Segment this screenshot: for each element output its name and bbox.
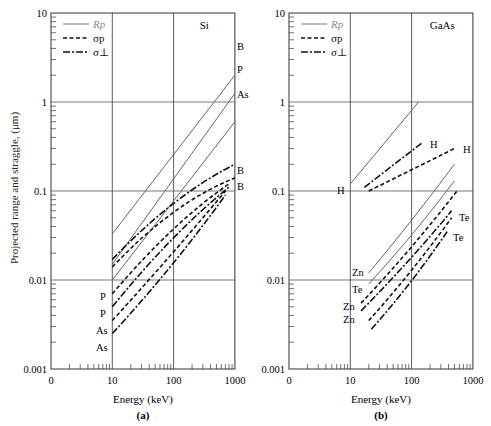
material-label: GaAs — [430, 19, 455, 31]
series-end-label: Zn — [343, 301, 355, 312]
series-end-label: P — [237, 64, 243, 75]
x-axis-label: Energy (keV) — [113, 393, 173, 406]
series-end-label: H — [337, 185, 345, 196]
series-end-label: B — [237, 181, 244, 192]
series-line — [364, 143, 422, 188]
x-tick-label: 0 — [48, 375, 53, 386]
chart-canvas: 1010.10.010.0010101001000Energy (keV)(a)… — [0, 0, 491, 426]
series-line — [112, 184, 229, 294]
x-axis-label: Energy (keV) — [351, 393, 411, 406]
y-tick-label: 1 — [280, 97, 285, 108]
series-end-label: B — [237, 41, 244, 52]
panel-label: (b) — [374, 409, 388, 422]
series-end-label: P — [100, 308, 106, 319]
svg-text:σp: σp — [331, 32, 343, 44]
y-tick-label: 0.1 — [34, 186, 47, 197]
x-tick-label: 10 — [107, 375, 118, 386]
x-tick-label: 10 — [345, 375, 356, 386]
svg-text:Rp: Rp — [92, 18, 106, 30]
series-line — [112, 195, 225, 334]
panel-b: 1010.10.010.0010101001000Energy (keV)(b)… — [261, 8, 483, 422]
panel-a: 1010.10.010.0010101001000Energy (keV)(a)… — [23, 8, 245, 422]
series-line — [369, 218, 452, 321]
svg-text:σp: σp — [93, 32, 105, 44]
svg-text:Rp: Rp — [330, 18, 344, 30]
series-end-label: Zn — [352, 267, 364, 278]
y-tick-label: 0.001 — [261, 364, 285, 375]
series-end-label: As — [237, 89, 249, 100]
series-line — [361, 211, 452, 311]
svg-text:σ⊥: σ⊥ — [331, 46, 347, 58]
series-end-label: P — [100, 291, 106, 302]
series-end-label: H — [430, 139, 438, 150]
x-tick-label: 1000 — [224, 375, 245, 386]
x-tick-label: 1000 — [462, 375, 483, 386]
panel-label: (a) — [137, 409, 150, 422]
x-tick-label: 100 — [404, 375, 420, 386]
x-tick-label: 0 — [286, 375, 291, 386]
series-end-label: B — [237, 165, 244, 176]
y-tick-label: 0.1 — [272, 186, 285, 197]
series-end-label: As — [96, 342, 108, 353]
x-tick-label: 100 — [166, 375, 182, 386]
y-tick-label: 10 — [37, 8, 48, 19]
series-line — [112, 191, 225, 321]
y-tick-label: 10 — [275, 8, 286, 19]
series-end-label: Te — [459, 212, 470, 223]
legend: Rpσpσ⊥ — [63, 18, 109, 58]
y-tick-label: 1 — [42, 97, 47, 108]
series-end-label: Te — [453, 232, 464, 243]
series-end-label: Te — [352, 284, 363, 295]
series-end-label: H — [463, 144, 471, 155]
series-end-label: As — [96, 325, 108, 336]
y-tick-label: 0.001 — [23, 364, 47, 375]
legend: Rpσpσ⊥ — [301, 18, 347, 58]
y-tick-label: 0.01 — [29, 275, 47, 286]
series-line — [350, 102, 418, 184]
y-tick-label: 0.01 — [267, 275, 285, 286]
series-end-label: Zn — [343, 314, 355, 325]
material-label: Si — [200, 19, 209, 31]
series-line — [361, 191, 457, 303]
svg-text:σ⊥: σ⊥ — [93, 46, 109, 58]
